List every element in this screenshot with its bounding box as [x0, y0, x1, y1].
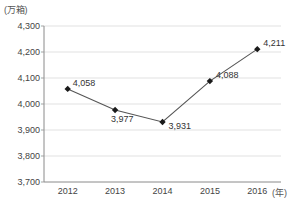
gridlines: [44, 26, 281, 156]
line-chart: (万箱) (年) 3,7003,8003,9004,0004,1004,2004…: [0, 0, 304, 206]
data-point-label: 3,977: [111, 114, 134, 124]
data-point-marker: [65, 86, 71, 92]
data-line: [68, 49, 258, 122]
data-point-label: 4,058: [73, 78, 96, 88]
data-point-marker: [112, 107, 118, 113]
data-point-label: 4,088: [216, 70, 239, 80]
data-point-label: 3,931: [169, 121, 192, 131]
data-point-marker: [254, 46, 260, 52]
data-point-label: 4,211: [263, 38, 285, 48]
plot-area: [0, 0, 304, 206]
